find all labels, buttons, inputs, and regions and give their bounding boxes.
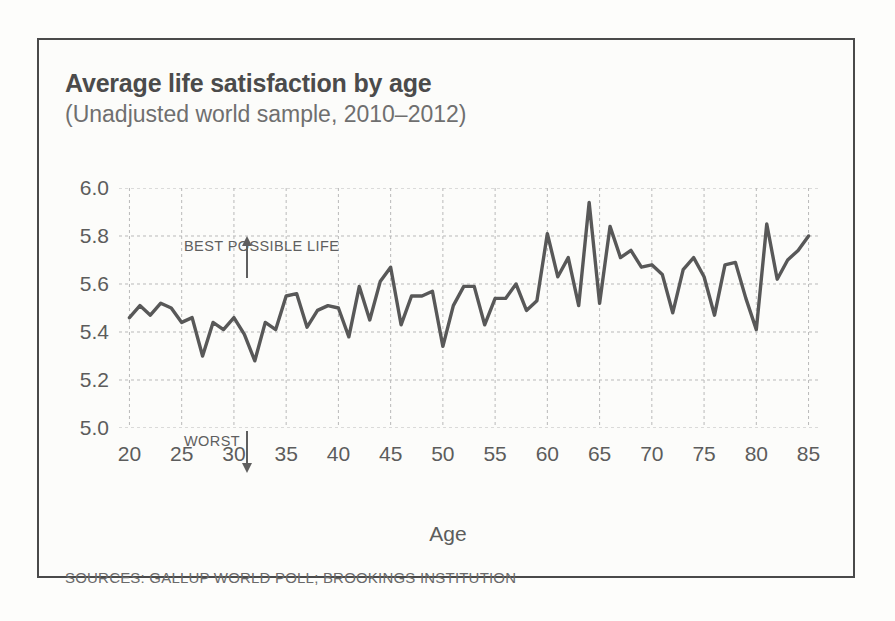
down-arrow-icon bbox=[239, 431, 255, 473]
x-tick-40: 40 bbox=[318, 442, 358, 466]
y-tick-5.6: 5.6 bbox=[57, 272, 109, 296]
source-note: SOURCES: GALLUP WORLD POLL; BROOKINGS IN… bbox=[65, 569, 516, 586]
chart-subtitle: (Unadjusted world sample, 2010–2012) bbox=[65, 101, 765, 127]
x-tick-75: 75 bbox=[684, 442, 724, 466]
y-tick-5.8: 5.8 bbox=[57, 224, 109, 248]
x-tick-70: 70 bbox=[632, 442, 672, 466]
x-tick-45: 45 bbox=[371, 442, 411, 466]
worst-annotation: WORST bbox=[184, 433, 240, 449]
title-block: Average life satisfaction by age (Unadju… bbox=[65, 70, 765, 127]
x-tick-80: 80 bbox=[736, 442, 776, 466]
x-tick-85: 85 bbox=[789, 442, 829, 466]
y-tick-5.2: 5.2 bbox=[57, 368, 109, 392]
x-tick-60: 60 bbox=[527, 442, 567, 466]
page-title: Average life satisfaction by age bbox=[65, 70, 765, 98]
x-tick-50: 50 bbox=[423, 442, 463, 466]
plot-area: 5.05.25.45.65.86.0 202530354045505560657… bbox=[119, 188, 819, 428]
best-possible-life-annotation: BEST POSSIBLE LIFE bbox=[184, 238, 339, 254]
x-tick-65: 65 bbox=[580, 442, 620, 466]
x-tick-35: 35 bbox=[266, 442, 306, 466]
line-chart-svg bbox=[119, 188, 819, 428]
x-tick-20: 20 bbox=[109, 442, 149, 466]
x-axis-title: Age bbox=[39, 522, 857, 546]
page-background: Average life satisfaction by age (Unadju… bbox=[0, 0, 895, 621]
y-tick-5.0: 5.0 bbox=[57, 416, 109, 440]
chart-figure-frame: Average life satisfaction by age (Unadju… bbox=[37, 38, 855, 578]
x-tick-55: 55 bbox=[475, 442, 515, 466]
y-tick-6.0: 6.0 bbox=[57, 176, 109, 200]
life-satisfaction-line bbox=[129, 202, 808, 360]
y-tick-5.4: 5.4 bbox=[57, 320, 109, 344]
